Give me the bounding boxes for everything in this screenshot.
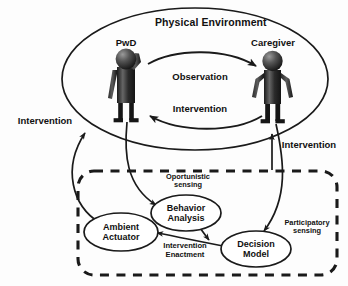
observation-label: Observation [155, 72, 245, 83]
behavior-analysis-label[interactable]: Behavior Analysis [152, 203, 220, 223]
behavior-analysis-line2: Analysis [152, 213, 220, 223]
intervention-left-arrow [72, 133, 100, 223]
ambient-actuator-label[interactable]: Ambient Actuator [86, 222, 156, 242]
intervention-inner-label: Intervention [155, 104, 245, 115]
behavior-analysis-line1: Behavior [152, 203, 220, 213]
diagram-canvas: Physical Environment PwD Caregiver Obser… [0, 0, 348, 286]
oportunistic-sensing-label: Oportunistic sensing [151, 173, 225, 190]
ambient-actuator-line1: Ambient [86, 222, 156, 232]
participatory-sensing-label: Participatory sensing [272, 219, 342, 236]
oportunistic-sensing-line2: sensing [151, 181, 225, 189]
caregiver-figure-icon [252, 51, 293, 124]
intervention-inner-arrow [150, 116, 262, 129]
ambient-actuator-line2: Actuator [86, 232, 156, 242]
caregiver-label: Caregiver [246, 38, 300, 49]
pwd-label: PwD [103, 38, 149, 49]
decision-model-line1: Decision [222, 239, 290, 249]
participatory-sensing-line2: sensing [272, 227, 342, 235]
decision-model-line2: Model [222, 249, 290, 259]
intervention-left-label: Intervention [8, 116, 82, 127]
intervention-enactment-label: Intervention Enactment [144, 242, 226, 259]
oportunistic-sensing-arrow [126, 122, 156, 205]
pwd-figure-icon [108, 49, 141, 123]
intervention-enactment-line2: Enactment [144, 251, 226, 260]
intervention-right-label: Intervention [272, 140, 346, 151]
decision-model-label[interactable]: Decision Model [222, 239, 290, 259]
physical-environment-label: Physical Environment [155, 17, 245, 29]
observation-arrow [148, 52, 256, 66]
